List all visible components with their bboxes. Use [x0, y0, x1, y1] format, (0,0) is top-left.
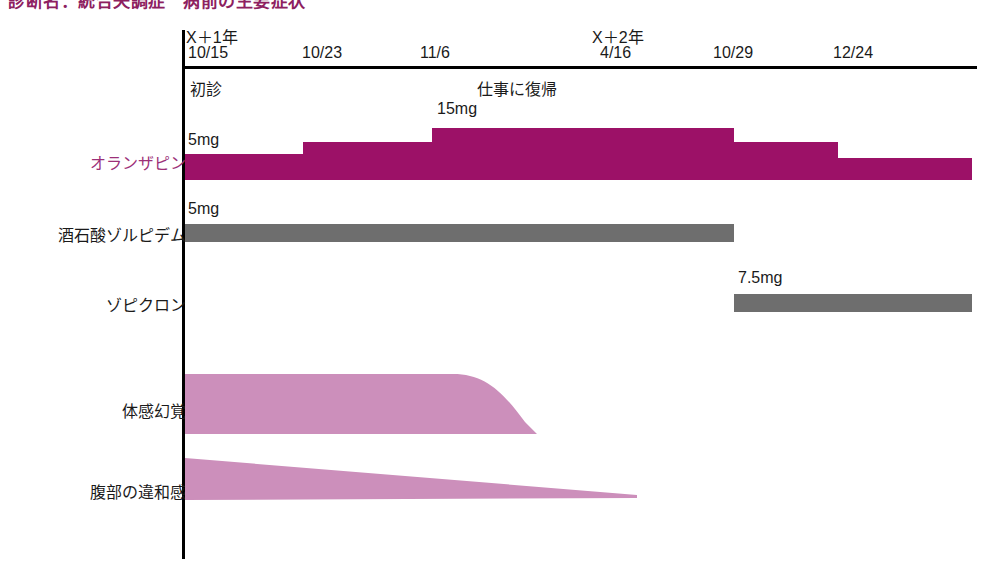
event-label-first-visit: 初診	[190, 76, 222, 100]
symptom-band-abdominal-discomfort	[185, 455, 645, 515]
axis-horizontal-line	[182, 66, 977, 69]
date-label-6: 12/24	[833, 44, 873, 62]
date-label-4: 4/16	[600, 44, 631, 62]
row-label-zolpidem: 酒石酸ゾルピデム	[58, 222, 186, 246]
page-title: 診断名：統合失調症 病前の主要症状	[8, 0, 306, 12]
row-label-zopiclone: ゾピクロン	[106, 292, 186, 316]
row-label-abdominal-discomfort: 腹部の違和感	[90, 479, 186, 503]
olanzapine-segment-10mg-a	[303, 142, 432, 180]
row-label-olanzapine: オランザピン	[90, 150, 186, 174]
dose-label-olanzapine-15mg: 15mg	[437, 100, 477, 118]
date-label-1: 10/15	[188, 44, 228, 62]
timeline-chart: 診断名：統合失調症 病前の主要症状 X＋1年 X＋2年 10/15 10/23 …	[0, 0, 982, 581]
date-label-5: 10/29	[713, 44, 753, 62]
zolpidem-bar	[185, 224, 734, 242]
row-label-cenesthetic-hallucination: 体感幻覚	[122, 398, 186, 422]
dose-label-olanzapine-5mg: 5mg	[188, 131, 219, 149]
dose-label-zopiclone-7-5mg: 7.5mg	[738, 269, 782, 287]
zopiclone-bar	[734, 294, 972, 312]
date-label-2: 10/23	[302, 44, 342, 62]
olanzapine-segment-5mg-b	[838, 158, 972, 180]
dose-label-zolpidem-5mg: 5mg	[188, 200, 219, 218]
date-label-3: 11/6	[420, 44, 450, 62]
olanzapine-segment-15mg	[432, 128, 734, 180]
olanzapine-segment-10mg-b	[734, 142, 838, 180]
event-label-return-to-work: 仕事に復帰	[477, 76, 557, 100]
symptom-band-cenesthetic-hallucination	[185, 370, 545, 440]
olanzapine-segment-5mg-a	[185, 154, 303, 180]
